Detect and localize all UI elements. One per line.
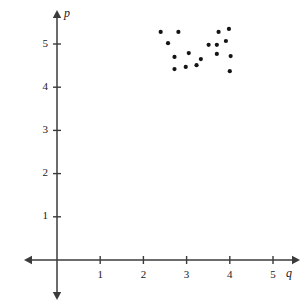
scatter-point bbox=[228, 69, 232, 73]
x-tick-label: 2 bbox=[141, 268, 147, 280]
scatter-point bbox=[227, 27, 231, 31]
scatter-point bbox=[224, 39, 228, 43]
scatter-point bbox=[184, 65, 188, 69]
y-tick-label: 4 bbox=[43, 80, 49, 92]
scatter-point bbox=[216, 30, 220, 34]
scatter-point bbox=[176, 30, 180, 34]
scatter-point bbox=[207, 43, 211, 47]
y-tick-label: 3 bbox=[43, 123, 49, 135]
scatter-point bbox=[187, 51, 191, 55]
y-axis-arrow-down-icon bbox=[53, 292, 61, 300]
scatter-point bbox=[194, 63, 198, 67]
scatter-point bbox=[215, 43, 219, 47]
scatter-point bbox=[166, 41, 170, 45]
scatter-point bbox=[159, 30, 163, 34]
x-tick-label: 5 bbox=[270, 268, 276, 280]
scatter-point bbox=[199, 57, 203, 61]
plot-canvas: 12345 q 12345 p bbox=[0, 0, 306, 306]
x-tick-label: 3 bbox=[184, 268, 190, 280]
scatter-point bbox=[215, 52, 219, 56]
y-tick-label: 2 bbox=[43, 166, 49, 178]
y-tick-label: 5 bbox=[43, 37, 49, 49]
scatter-point-series bbox=[159, 27, 233, 74]
y-axis-label: p bbox=[63, 6, 70, 20]
y-axis: 12345 p bbox=[43, 6, 71, 300]
y-axis-ticks: 12345 bbox=[43, 37, 62, 222]
x-axis-arrow-right-icon bbox=[292, 256, 300, 264]
x-tick-label: 4 bbox=[227, 268, 233, 280]
x-axis: 12345 q bbox=[24, 256, 300, 280]
y-axis-arrow-up-icon bbox=[53, 10, 61, 18]
y-tick-label: 1 bbox=[43, 209, 49, 221]
scatter-plot-figure: 12345 q 12345 p bbox=[0, 0, 306, 306]
x-axis-label: q bbox=[286, 266, 292, 280]
x-axis-arrow-left-icon bbox=[24, 256, 32, 264]
x-tick-label: 1 bbox=[97, 268, 103, 280]
scatter-point bbox=[229, 54, 233, 58]
scatter-point bbox=[172, 67, 176, 71]
scatter-point bbox=[172, 55, 176, 59]
